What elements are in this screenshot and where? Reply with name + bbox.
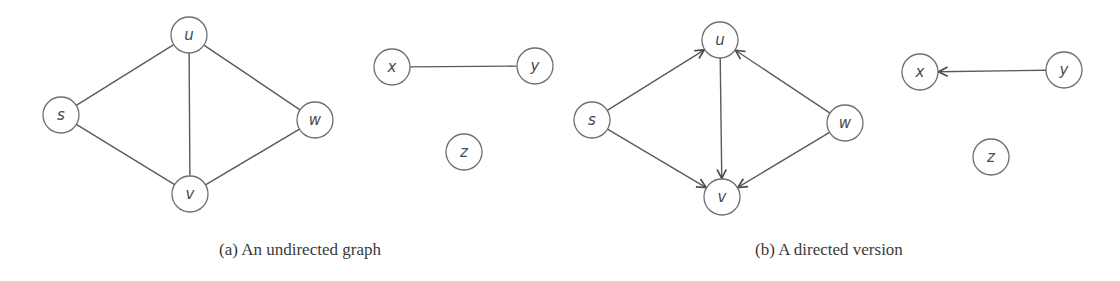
node-label: y — [1059, 61, 1070, 79]
nodes-undirected: uswvxyz — [43, 17, 553, 212]
node-label: u — [184, 26, 194, 44]
edge-w-v — [206, 129, 300, 184]
node-label: s — [57, 106, 65, 124]
node-v: v — [704, 179, 740, 215]
node-s: s — [574, 102, 610, 138]
edge-w-v — [738, 132, 830, 187]
node-v: v — [172, 176, 208, 212]
nodes-directed: uswvxyz — [574, 22, 1082, 215]
edge-x-y — [410, 66, 517, 67]
edge-s-u — [76, 45, 173, 106]
edge-s-v — [76, 124, 174, 184]
figure-canvas: uswvxyz (a) An undirected graph uswvxyz … — [0, 0, 1120, 281]
edge-u-v — [189, 53, 190, 176]
node-label: z — [986, 148, 996, 166]
node-u: u — [171, 17, 207, 53]
node-label: w — [839, 114, 852, 132]
node-x: x — [902, 54, 938, 90]
node-u: u — [702, 22, 738, 58]
edge-u-v — [720, 58, 722, 179]
panel-undirected-graph: uswvxyz (a) An undirected graph — [43, 17, 553, 259]
node-z: z — [446, 134, 482, 170]
node-w: w — [827, 105, 863, 141]
edge-w-u — [735, 50, 830, 113]
edge-s-u — [607, 50, 704, 111]
edge-y-x — [938, 70, 1046, 71]
node-label: z — [459, 143, 469, 161]
node-label: u — [715, 31, 725, 49]
node-y: y — [1046, 52, 1082, 88]
caption-directed: (b) A directed version — [755, 240, 903, 259]
node-label: v — [718, 188, 728, 206]
edge-u-w — [204, 45, 300, 110]
node-label: x — [915, 63, 925, 81]
node-label: v — [186, 185, 196, 203]
panel-directed-graph: uswvxyz (b) A directed version — [574, 22, 1082, 259]
node-w: w — [297, 102, 333, 138]
caption-undirected: (a) An undirected graph — [219, 240, 381, 259]
node-label: w — [309, 111, 322, 129]
node-x: x — [374, 49, 410, 85]
node-label: y — [530, 57, 541, 75]
node-s: s — [43, 97, 79, 133]
edge-s-v — [607, 129, 706, 187]
node-label: s — [588, 111, 596, 129]
node-y: y — [517, 48, 553, 84]
node-z: z — [973, 139, 1009, 175]
node-label: x — [387, 58, 397, 76]
